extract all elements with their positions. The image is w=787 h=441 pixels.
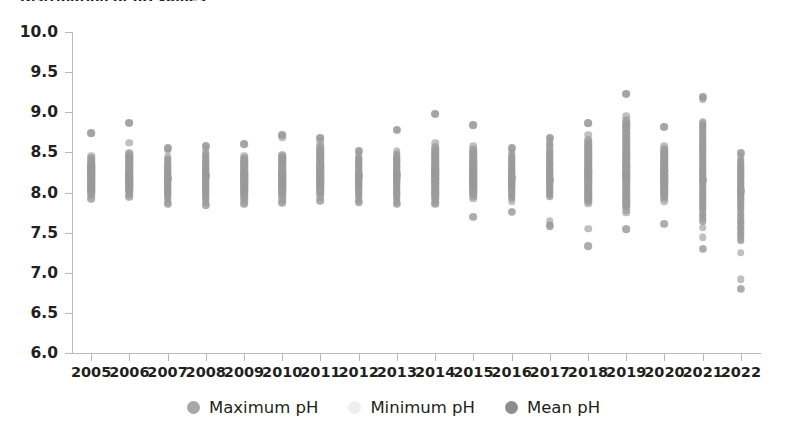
- data-point: [355, 154, 363, 162]
- y-axis-tick-label: 10.0: [0, 23, 58, 41]
- data-point: [240, 155, 248, 163]
- page-title: Distribution of pH values: [20, 0, 206, 1]
- data-point: [660, 123, 668, 131]
- data-point: [164, 200, 172, 208]
- data-point: [660, 172, 668, 180]
- data-point: [278, 199, 286, 207]
- y-axis-tick-label: 8.0: [0, 184, 58, 202]
- data-point: [87, 195, 95, 203]
- data-point: [737, 249, 745, 257]
- data-point: [87, 171, 95, 179]
- data-point: [584, 119, 592, 127]
- data-point: [240, 200, 248, 208]
- data-point: [355, 198, 363, 206]
- legend-swatch-circle-icon: [348, 401, 361, 414]
- data-point: [622, 171, 630, 179]
- data-point: [355, 172, 363, 180]
- data-point: [699, 93, 707, 101]
- legend-label: Maximum pH: [209, 398, 318, 417]
- x-axis-tick-mark: [91, 354, 92, 361]
- x-axis-tick-label: 2013: [377, 364, 417, 380]
- data-point: [469, 121, 477, 129]
- x-axis-tick-label: 2011: [300, 364, 340, 380]
- x-axis-tick-label: 2009: [224, 364, 264, 380]
- legend-item[interactable]: Minimum pH: [348, 398, 475, 417]
- legend-swatch-circle-icon: [505, 401, 518, 414]
- legend-label: Minimum pH: [370, 398, 475, 417]
- data-point: [431, 200, 439, 208]
- y-axis-tick-mark: [65, 112, 72, 113]
- data-point: [508, 174, 516, 182]
- x-axis-tick-label: 2014: [415, 364, 455, 380]
- y-axis-tick-mark: [65, 313, 72, 314]
- data-point: [202, 142, 210, 150]
- y-axis-tick-label: 6.0: [0, 344, 58, 362]
- x-axis-tick-label: 2017: [530, 364, 570, 380]
- y-axis-tick-label: 7.0: [0, 264, 58, 282]
- data-point: [584, 225, 592, 233]
- x-axis-tick-mark: [741, 354, 742, 361]
- data-point: [202, 150, 210, 158]
- x-axis-tick-label: 2007: [147, 364, 187, 380]
- x-axis-tick-mark: [244, 354, 245, 361]
- x-axis-tick-mark: [473, 354, 474, 361]
- x-axis-tick-label: 2006: [109, 364, 149, 380]
- data-point: [660, 220, 668, 228]
- y-axis-tick-mark: [65, 353, 72, 354]
- data-point: [126, 139, 134, 147]
- data-point: [469, 172, 477, 180]
- x-axis-tick-mark: [129, 354, 130, 361]
- data-point: [278, 171, 286, 179]
- y-axis-tick-mark: [65, 32, 72, 33]
- x-axis-tick-mark: [359, 354, 360, 361]
- data-point: [622, 117, 630, 125]
- legend-item[interactable]: Mean pH: [505, 398, 600, 417]
- x-axis-tick-mark: [168, 354, 169, 361]
- data-point: [278, 131, 286, 139]
- data-point: [393, 171, 401, 179]
- data-point: [699, 234, 707, 242]
- data-point: [584, 242, 592, 250]
- data-point: [393, 126, 401, 134]
- data-point: [584, 172, 592, 180]
- data-point: [164, 175, 172, 183]
- legend-swatch-circle-icon: [187, 401, 200, 414]
- data-point: [699, 176, 707, 184]
- data-point: [699, 245, 707, 253]
- data-point: [584, 136, 592, 144]
- data-point: [737, 149, 745, 157]
- x-axis-tick-mark: [512, 354, 513, 361]
- x-axis-tick-label: 2015: [453, 364, 493, 380]
- x-axis-tick-label: 2012: [338, 364, 378, 380]
- y-axis-tick-label: 8.5: [0, 143, 58, 161]
- data-point: [87, 129, 95, 137]
- x-axis-tick-label: 2021: [682, 364, 722, 380]
- y-axis-tick-label: 6.5: [0, 304, 58, 322]
- data-point: [393, 151, 401, 159]
- data-point: [126, 150, 134, 158]
- data-point: [164, 144, 172, 152]
- data-point: [737, 285, 745, 293]
- y-axis-tick-label: 9.0: [0, 103, 58, 121]
- data-point: [431, 143, 439, 151]
- scatter-plot-area: [72, 32, 760, 353]
- data-point: [661, 146, 669, 154]
- data-point: [87, 155, 95, 163]
- data-point: [737, 187, 745, 195]
- legend-item[interactable]: Maximum pH: [187, 398, 318, 417]
- y-axis-tick-mark: [65, 193, 72, 194]
- data-point: [393, 200, 401, 208]
- y-axis-tick-label: 7.5: [0, 224, 58, 242]
- data-point: [699, 118, 707, 126]
- y-axis-tick-label: 9.5: [0, 63, 58, 81]
- data-point: [431, 110, 439, 118]
- data-point: [699, 224, 707, 232]
- data-point: [431, 169, 439, 177]
- x-axis-tick-mark: [397, 354, 398, 361]
- x-axis-tick-mark: [626, 354, 627, 361]
- data-point: [546, 176, 554, 184]
- x-axis-tick-label: 2020: [644, 364, 684, 380]
- x-axis-tick-label: 2016: [491, 364, 531, 380]
- y-axis-tick-mark: [65, 233, 72, 234]
- data-point: [125, 170, 133, 178]
